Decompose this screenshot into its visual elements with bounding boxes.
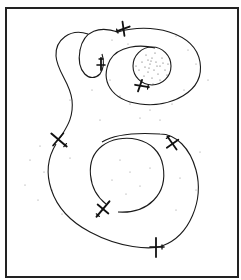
sparse-stipple-region [25, 36, 209, 215]
lower-outer-loop [48, 133, 198, 247]
flight-paths [48, 28, 200, 248]
airplane-icon [46, 127, 72, 152]
flight-path-diagram [0, 0, 241, 280]
aircraft-group [46, 20, 182, 257]
airplane-icon [162, 132, 183, 153]
lower-inner-circle [90, 138, 163, 212]
upper-outer-loop [106, 28, 200, 104]
airplane-icon [150, 238, 164, 257]
connecting-tail [56, 32, 88, 138]
dense-stipple-region [135, 52, 168, 84]
upper-inner-circle [133, 47, 171, 85]
airplane-icon [91, 197, 115, 221]
airplane-icon [134, 79, 150, 93]
upper-small-loop [79, 29, 118, 77]
